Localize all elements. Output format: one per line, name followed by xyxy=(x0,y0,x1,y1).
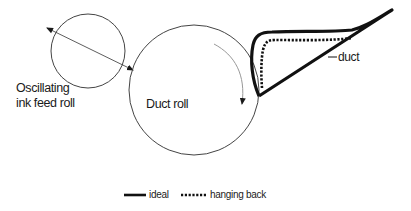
rotation-arrow-icon xyxy=(214,44,243,104)
oscillating-roll-label-line2: ink feed roll xyxy=(16,96,75,110)
oscillating-roll-label-line1: Oscillating xyxy=(16,81,70,95)
legend: ideal hanging back xyxy=(124,189,267,200)
ink-duct-diagram: duct Duct roll Oscillating ink feed roll… xyxy=(0,0,411,211)
legend-hanging-back-label: hanging back xyxy=(210,189,267,200)
duct-ideal-shape xyxy=(252,10,392,96)
oscillation-arrow-icon xyxy=(47,28,133,70)
oscillating-roll xyxy=(51,14,125,88)
duct-label: duct xyxy=(338,50,360,64)
duct-roll xyxy=(129,25,259,155)
duct-roll-label: Duct roll xyxy=(146,97,188,111)
legend-ideal-label: ideal xyxy=(149,189,169,200)
